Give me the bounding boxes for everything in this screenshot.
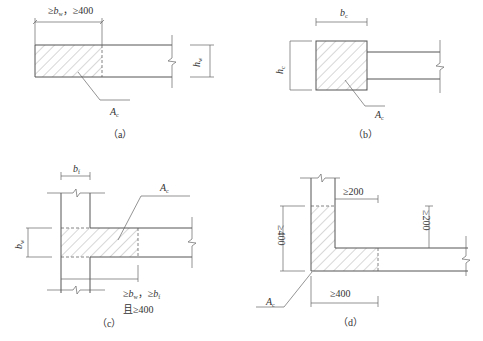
- dim-label-b-hc: hc: [274, 66, 286, 74]
- hatched-column-b: [316, 41, 367, 90]
- break-line-icon: [462, 236, 470, 276]
- dim-label-c-bf: bf: [73, 163, 80, 175]
- dim-label-c-bottom-2: 且≥400: [123, 304, 154, 315]
- area-label-d: Ac: [265, 296, 275, 308]
- dim-label-c-bottom-1: ≥bw，≥bf: [123, 288, 160, 300]
- dim-label-a-hw: hw: [191, 57, 203, 67]
- break-line-icon: [188, 217, 196, 268]
- hatched-area-a: [35, 45, 102, 77]
- dim-label-d-right: ≥200: [421, 210, 432, 231]
- figure-a: [33, 18, 214, 100]
- break-line-icon: [168, 35, 176, 88]
- hatched-area-d: [311, 206, 378, 271]
- area-label-c: Ac: [159, 182, 169, 194]
- break-line-icon: [436, 40, 444, 93]
- caption-a: （a）: [108, 129, 132, 140]
- area-label-a: Ac: [109, 106, 119, 118]
- diagram-canvas: ≥bw，≥400 hw Ac （a） bc hc Ac （b）: [0, 0, 483, 341]
- area-label-b: Ac: [374, 109, 384, 121]
- caption-c: （c）: [97, 318, 121, 329]
- dim-label-b-bc: bc: [340, 7, 348, 19]
- caption-b: （b）: [353, 129, 378, 140]
- hatched-area-c: [61, 228, 138, 257]
- dim-label-a-top: ≥bw，≥400: [48, 5, 93, 17]
- figure-b: [290, 18, 444, 106]
- dim-label-c-bw: bw: [13, 239, 25, 249]
- dim-label-d-top: ≥200: [343, 186, 364, 197]
- figure-c: [26, 172, 196, 294]
- caption-d: （d）: [338, 317, 363, 328]
- dim-label-d-left: ≥400: [276, 225, 287, 246]
- dim-label-d-bottom: ≥400: [330, 288, 351, 299]
